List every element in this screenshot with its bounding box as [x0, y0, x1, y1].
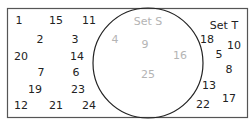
- set-s-element: 9: [142, 39, 149, 50]
- set-s-label: Set S: [134, 16, 163, 27]
- set-t-element: 6: [73, 67, 80, 78]
- set-t-element: 23: [71, 84, 85, 95]
- set-t-element: 21: [49, 100, 63, 111]
- set-t-element: 15: [49, 15, 63, 26]
- set-t-element: 12: [14, 100, 28, 111]
- set-t-element: 18: [200, 34, 214, 45]
- set-t-element: 14: [70, 51, 84, 62]
- set-t-element: 19: [28, 84, 42, 95]
- set-t-element: 1: [16, 15, 23, 26]
- set-t-element: 13: [202, 80, 216, 91]
- set-t-element: 2: [37, 34, 44, 45]
- set-t-element: 20: [14, 51, 28, 62]
- set-t-element: 5: [216, 49, 223, 60]
- set-t-element: 17: [222, 93, 236, 104]
- set-t-element: 24: [82, 100, 96, 111]
- set-t-element: 22: [196, 99, 210, 110]
- set-s-element: 4: [112, 34, 119, 45]
- set-s-element: 16: [173, 50, 187, 61]
- set-t-element: 3: [72, 34, 79, 45]
- set-t-element: 7: [38, 67, 45, 78]
- set-t-element: 11: [82, 15, 96, 26]
- set-t-label: Set T: [210, 20, 238, 31]
- set-t-element: 10: [227, 40, 241, 51]
- set-t-element: 8: [226, 64, 233, 75]
- set-s-element: 25: [141, 69, 155, 80]
